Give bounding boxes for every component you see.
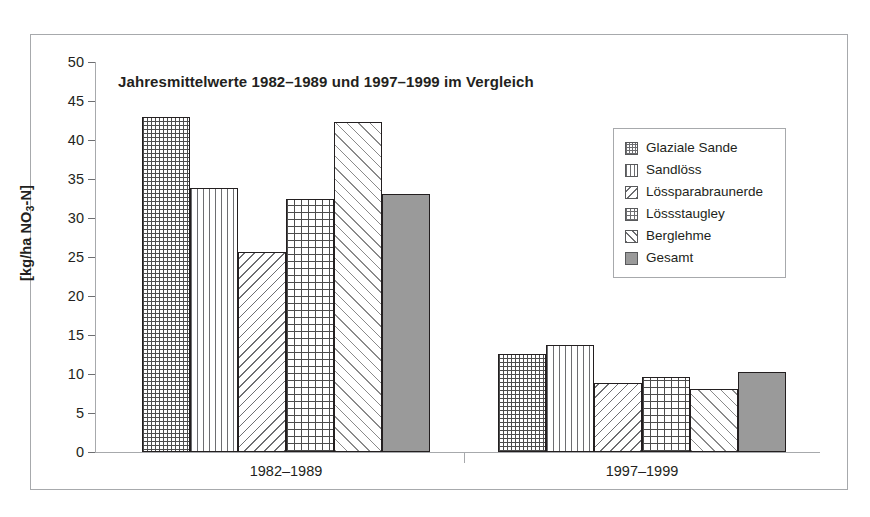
legend-item: Gesamt	[625, 247, 785, 269]
legend-item: Glaziale Sande	[625, 137, 785, 159]
y-axis-title-tail: -N]	[18, 185, 34, 205]
y-axis-tick-label: 30	[44, 211, 84, 226]
bar	[594, 383, 642, 452]
vertical-lines-swatch-icon	[625, 164, 638, 177]
legend-item-label: Sandlöss	[646, 163, 702, 177]
y-axis-tick-mark	[88, 140, 95, 141]
bar	[286, 199, 334, 453]
y-axis-tick-label: 50	[44, 55, 84, 70]
diagonal-back-swatch-icon	[625, 186, 638, 199]
y-axis-title-main: [kg/ha NO	[18, 212, 34, 281]
y-axis-tick-mark	[88, 62, 95, 63]
legend-item-label: Gesamt	[646, 251, 693, 265]
bar	[642, 377, 690, 452]
bar	[498, 354, 546, 452]
y-axis-tick-mark	[88, 413, 95, 414]
dots-swatch-icon	[625, 142, 638, 155]
x-axis-line	[95, 452, 820, 453]
chart-figure: 05101520253035404550 [kg/ha NO3-N] Jahre…	[0, 0, 870, 517]
bar	[382, 194, 430, 452]
crosshatch-swatch-icon	[625, 208, 638, 221]
x-axis-group-separator-tick	[464, 452, 465, 463]
y-axis-tick-mark	[88, 452, 95, 453]
legend-item: Berglehme	[625, 225, 785, 247]
y-axis-tick-label: 10	[44, 367, 84, 382]
y-axis-tick-label: 0	[44, 445, 84, 460]
y-axis-tick-mark	[88, 179, 95, 180]
y-axis-tick-label: 15	[44, 328, 84, 343]
legend-item-label: Lössparabraunerde	[646, 185, 763, 199]
y-axis-tick-label: 40	[44, 133, 84, 148]
legend-item-label: Lössstaugley	[646, 207, 725, 221]
bar	[238, 252, 286, 452]
y-axis-tick-mark	[88, 374, 95, 375]
diagonal-forward-swatch-icon	[625, 230, 638, 243]
legend-box: Glaziale SandeSandlössLössparabraunerdeL…	[613, 128, 786, 278]
y-axis-title-subscript: 3	[24, 206, 36, 212]
x-axis-group-label: 1982–1989	[226, 463, 346, 479]
y-axis-tick-mark	[88, 257, 95, 258]
y-axis-tick-mark	[88, 335, 95, 336]
legend-item-label: Glaziale Sande	[646, 141, 738, 155]
legend-item: Lössstaugley	[625, 203, 785, 225]
bar	[738, 372, 786, 452]
y-axis-tick-label: 20	[44, 289, 84, 304]
bar	[190, 188, 238, 452]
legend-item-label: Berglehme	[646, 229, 711, 243]
y-axis-tick-label: 25	[44, 250, 84, 265]
y-axis-tick-label: 5	[44, 406, 84, 421]
bar	[546, 345, 594, 452]
y-axis-tick-mark	[88, 218, 95, 219]
bar	[334, 122, 382, 452]
y-axis-title: [kg/ha NO3-N]	[18, 143, 34, 323]
y-axis-tick-mark	[88, 101, 95, 102]
solid-gray-swatch-icon	[625, 252, 638, 265]
legend-item: Sandlöss	[625, 159, 785, 181]
y-axis-tick-labels: 05101520253035404550	[38, 0, 84, 517]
bar	[142, 117, 190, 452]
y-axis-tick-mark	[88, 296, 95, 297]
y-axis-tick-label: 35	[44, 172, 84, 187]
x-axis-group-label: 1997–1999	[582, 463, 702, 479]
bar	[690, 389, 738, 452]
legend-item: Lössparabraunerde	[625, 181, 785, 203]
y-axis-tick-label: 45	[44, 94, 84, 109]
